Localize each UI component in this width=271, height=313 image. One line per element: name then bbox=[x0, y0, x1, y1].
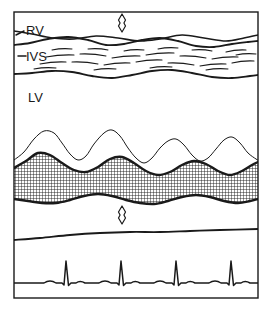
label-ivs: IVS bbox=[26, 49, 47, 64]
label-lv: LV bbox=[28, 90, 43, 105]
figure-container: RV IVS LV bbox=[0, 0, 271, 313]
m-mode-echocardiogram-figure: RV IVS LV bbox=[0, 0, 271, 313]
label-rv: RV bbox=[26, 23, 44, 38]
